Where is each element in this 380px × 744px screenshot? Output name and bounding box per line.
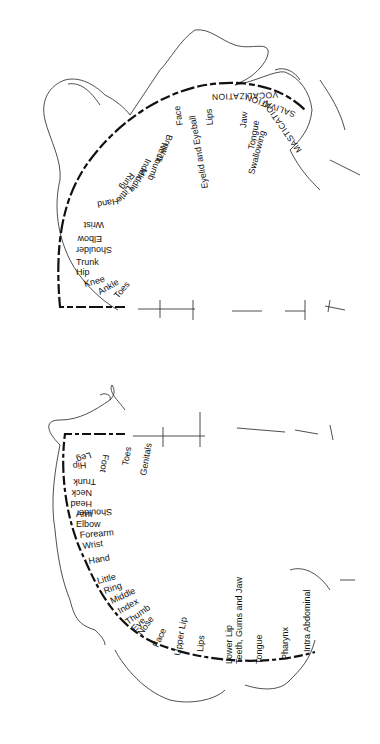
label-arm: Arm [76, 509, 93, 519]
label-lower-lip: Lower Lip [224, 625, 234, 664]
label-toes: Toes [120, 445, 133, 466]
label-jaw: Jaw [238, 111, 249, 128]
label-lips: Lips [204, 108, 215, 126]
label-shoulder: Shoulder [76, 245, 112, 255]
label-intra-abdominal: Intra Abdominal [302, 589, 312, 652]
label-genitals: Genitals [138, 442, 154, 477]
homunculus-diagram: Toes Ankle Knee Hip Trunk Shoulder Elbow… [0, 0, 380, 744]
sensory-labels: Genitals Toes Foot Leg Hip Trunk Neck He… [70, 442, 312, 664]
label-pharynx: Pharynx [280, 626, 290, 660]
label-foot: Foot [98, 454, 111, 474]
label-neck: Neck [71, 488, 92, 498]
label-trunk: Trunk [73, 477, 96, 487]
label-face: Face [172, 105, 185, 126]
label-head: Head [70, 499, 92, 509]
label-wrist: Wrist [82, 538, 104, 551]
label-trunk: Trunk [76, 257, 99, 267]
label-hip: Hip [76, 267, 90, 277]
label-face: Face [151, 626, 169, 648]
label-teeth-gums-jaw: Teeth, Gums and Jaw [234, 576, 244, 664]
label-upper-lip: Upper Lip [172, 616, 189, 656]
label-lips: Lips [195, 634, 206, 652]
label-hip: Hip [72, 460, 86, 471]
label-elbow: Elbow [77, 234, 102, 244]
label-hand: Hand [88, 552, 111, 566]
label-wrist: Wrist [83, 220, 104, 230]
label-tongue: Tongue [254, 634, 264, 664]
motor-labels: Toes Ankle Knee Hip Trunk Shoulder Elbow… [76, 90, 304, 300]
